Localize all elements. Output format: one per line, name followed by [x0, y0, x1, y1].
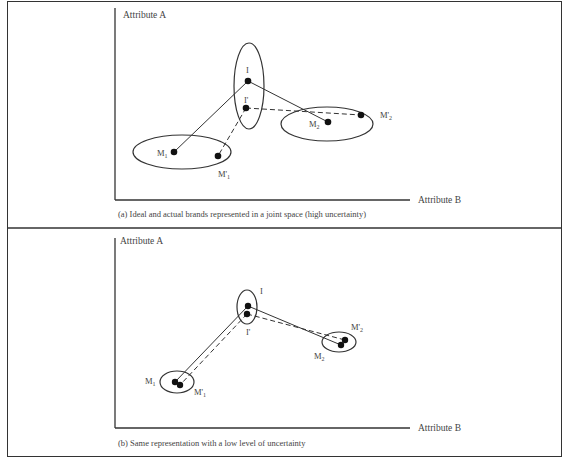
caption-b: (b) Same representation with a low level…: [118, 438, 306, 448]
label-i-prime: I': [246, 327, 251, 337]
label-i-prime: I': [244, 95, 249, 105]
point-m1-prime: [177, 382, 183, 388]
m1-uncertainty-ellipse: [133, 135, 231, 169]
line-iprime-m1prime: [218, 108, 246, 156]
panel-a: Attribute A Attribute B I I' M1 M'1 M2 M…: [115, 8, 461, 219]
label-m1-prime: M'1: [218, 169, 230, 180]
x-axis-label: Attribute B: [418, 195, 461, 205]
point-m2-prime: [342, 337, 348, 343]
line-iprime-m1prime: [180, 314, 247, 385]
point-i: [245, 303, 251, 309]
panel-b: Attribute A Attribute B I I' M1 M'1 M2 M…: [115, 236, 461, 448]
caption-a: (a) Ideal and actual brands represented …: [118, 209, 366, 219]
label-i: I: [260, 286, 263, 296]
point-i-prime: [243, 105, 250, 112]
label-i: I: [246, 65, 249, 75]
label-m2: M2: [309, 119, 320, 130]
point-i: [245, 78, 252, 85]
line-i-m2: [248, 306, 341, 345]
line-i-m1: [174, 81, 248, 152]
y-axis-label: Attribute A: [123, 10, 166, 20]
line-iprime-m2prime: [247, 314, 345, 340]
joint-space-diagram: Attribute A Attribute B I I' M1 M'1 M2 M…: [0, 0, 568, 468]
label-m1-prime: M'1: [194, 387, 206, 398]
point-m1-prime: [215, 153, 222, 160]
label-m2-prime: M'2: [380, 110, 392, 121]
label-m2-prime: M'2: [351, 322, 363, 333]
point-m2-prime: [358, 112, 365, 119]
ideal-uncertainty-ellipse: [234, 43, 264, 129]
label-m1: M1: [145, 376, 156, 387]
label-m1: M1: [157, 148, 168, 159]
point-m2: [338, 342, 344, 348]
y-axis-label: Attribute A: [120, 236, 163, 246]
line-i-m1: [175, 306, 248, 382]
x-axis-label: Attribute B: [418, 423, 461, 433]
point-m2: [325, 119, 332, 126]
point-m1: [171, 149, 178, 156]
label-m2: M2: [314, 351, 325, 362]
point-i-prime: [244, 311, 250, 317]
